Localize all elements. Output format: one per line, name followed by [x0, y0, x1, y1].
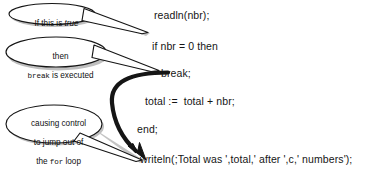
- callout-jump-out-keyword: for: [50, 158, 63, 166]
- arrow-break-to-writeln-shaft: [112, 73, 168, 152]
- callout-jump-out-line-3-post: loop: [63, 157, 81, 166]
- code-line-if: if nbr = 0 then: [152, 40, 218, 52]
- code-line-total: total := total + nbr;: [145, 95, 235, 107]
- code-line-writeln: writeln(;Total was ',total,' after ',c,'…: [140, 153, 352, 165]
- callout-break-executed-label: then break is executed: [8, 42, 104, 91]
- code-line-readln: readln(nbr);: [154, 9, 209, 21]
- callout-jump-out-line-2: to jump out of: [34, 138, 84, 147]
- callout-jump-out-line-1: causing control: [31, 119, 86, 128]
- callout-break-executed-line-1: then: [53, 52, 69, 61]
- code-line-end: end;: [137, 123, 158, 135]
- callout-break-executed-keyword: break: [28, 72, 50, 80]
- callout-if-true-text-plain: If this is: [34, 19, 64, 28]
- callout-jump-out-line-3-pre: the: [36, 157, 50, 166]
- callout-jump-out-label: causing control to jump out of the for l…: [9, 109, 99, 174]
- annotated-code-figure: readln(nbr); if nbr = 0 then break; tota…: [0, 0, 378, 174]
- callout-if-true-label: If this is true: [12, 10, 92, 39]
- code-line-break: break;: [161, 67, 191, 79]
- callout-if-true-text-italic: true: [65, 19, 79, 28]
- callout-break-executed-line-2: is executed: [50, 71, 94, 80]
